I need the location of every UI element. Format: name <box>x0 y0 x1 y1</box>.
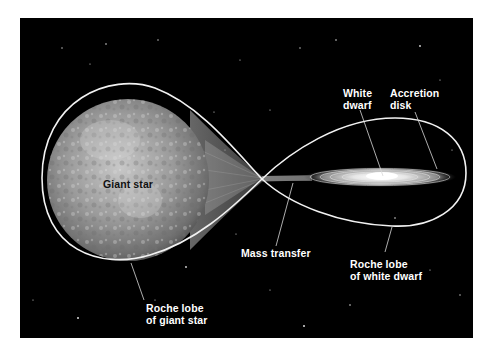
label-giant-star: Giant star <box>103 178 153 190</box>
label-mass-transfer: Mass transfer <box>241 247 311 259</box>
label-roche-wd-line1: Roche lobe <box>350 258 422 270</box>
label-white-dwarf-line2: dwarf <box>343 99 372 111</box>
label-white-dwarf-line1: White <box>343 87 372 99</box>
accretion-disk <box>304 167 456 187</box>
binary-system-illustration <box>20 18 473 338</box>
label-accretion-disk-line1: Accretion <box>390 87 439 99</box>
label-roche-giant-line1: Roche lobe <box>146 302 207 314</box>
label-roche-lobe-giant-star: Roche lobe of giant star <box>146 302 207 326</box>
label-accretion-disk-line2: disk <box>390 99 439 111</box>
diagram-panel: Giant star White dwarf Accretion disk Ma… <box>20 18 473 338</box>
label-roche-giant-line2: of giant star <box>146 314 207 326</box>
label-roche-lobe-white-dwarf: Roche lobe of white dwarf <box>350 258 422 282</box>
label-accretion-disk: Accretion disk <box>390 87 439 111</box>
label-roche-wd-line2: of white dwarf <box>350 270 422 282</box>
label-white-dwarf: White dwarf <box>343 87 372 111</box>
